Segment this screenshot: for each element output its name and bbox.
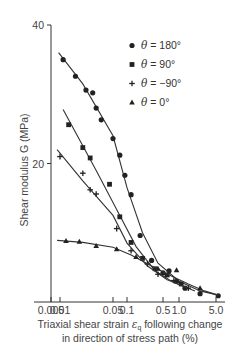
shear-modulus-chart: 0.0050.010.050.10.51.05.0 2040 Shear mod…: [0, 0, 241, 364]
data-point: [129, 240, 134, 245]
data-point: [114, 246, 120, 251]
data-point: [73, 74, 78, 79]
y-axis-title: Shear modulus G (MPa): [18, 113, 30, 226]
data-point: [122, 173, 127, 178]
data-point: [61, 57, 66, 62]
series-square: [63, 110, 195, 291]
series-triangle: [57, 238, 218, 295]
data-point: [94, 106, 99, 111]
fit-curve: [63, 110, 195, 291]
legend-label: θ = −90°: [141, 77, 181, 89]
data-point: [110, 136, 115, 141]
data-point: [77, 239, 83, 244]
x-ticks: 0.0050.010.050.10.51.05.0: [38, 297, 224, 316]
plot-area: [57, 53, 221, 299]
axes: 0.0050.010.050.10.51.05.0 2040 Shear mod…: [18, 19, 225, 344]
y-tick-label: 40: [32, 19, 44, 31]
data-point: [138, 233, 143, 238]
x-tick-label: 0.5: [156, 304, 171, 316]
x-axis-title-line1: Triaxial shear strain εq following chang…: [38, 318, 223, 332]
y-tick-label: 20: [32, 158, 44, 170]
legend-label: θ = 180°: [141, 39, 181, 51]
x-tick-label: 0.01: [50, 304, 71, 316]
data-point: [88, 156, 93, 161]
legend-marker-plus: [129, 81, 135, 87]
legend-label: θ = 0°: [141, 96, 169, 108]
data-point: [90, 90, 95, 95]
x-axis-title-line2: in direction of stress path (%): [62, 332, 198, 344]
data-point: [128, 248, 134, 254]
data-point: [107, 182, 112, 187]
data-point: [149, 258, 154, 263]
data-point: [93, 191, 99, 197]
data-point: [80, 145, 85, 150]
data-point: [80, 170, 86, 176]
data-point: [117, 214, 122, 219]
data-point: [83, 87, 88, 92]
data-point: [57, 154, 63, 160]
data-point: [66, 122, 71, 127]
legend: θ = 180°θ = 90°θ = −90°θ = 0°: [129, 39, 181, 108]
data-point: [128, 192, 133, 197]
data-point: [99, 117, 104, 122]
x-tick-label: 5.0: [209, 304, 224, 316]
legend-marker-triangle: [129, 100, 135, 105]
legend-label: θ = 90°: [141, 58, 175, 70]
legend-marker-square: [130, 62, 135, 67]
x-tick-label: 1.0: [172, 304, 187, 316]
data-point: [174, 267, 180, 272]
data-point: [117, 153, 122, 158]
data-point: [197, 291, 202, 296]
legend-marker-circle: [129, 43, 134, 48]
x-tick-label: 0.1: [120, 304, 135, 316]
y-ticks: 2040: [32, 19, 51, 170]
